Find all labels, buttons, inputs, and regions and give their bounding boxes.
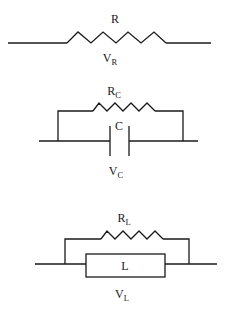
resistor-label: R bbox=[111, 12, 119, 26]
inductor-parallel-branch-left bbox=[65, 239, 101, 264]
capacitor-parallel-resistor-label: RC bbox=[107, 84, 121, 100]
capacitor-parallel-branch-left bbox=[58, 111, 93, 141]
resistor-voltage-label: VR bbox=[103, 51, 118, 67]
capacitor-circuit: RC C VC bbox=[39, 84, 198, 180]
capacitor-parallel-resistor-zigzag bbox=[93, 103, 155, 111]
inductor-parallel-resistor-label: RL bbox=[117, 211, 130, 227]
inductor-label: L bbox=[121, 259, 128, 273]
capacitor-parallel-branch-right bbox=[155, 111, 183, 141]
resistor-zigzag bbox=[67, 32, 166, 43]
inductor-voltage-label: VL bbox=[115, 287, 129, 303]
circuit-diagram: R VR RC C VC bbox=[0, 0, 227, 309]
inductor-parallel-resistor-zigzag bbox=[101, 231, 163, 239]
capacitor-voltage-label: VC bbox=[109, 164, 124, 180]
capacitor-label: C bbox=[115, 119, 123, 133]
resistor-circuit: R VR bbox=[8, 12, 211, 67]
inductor-circuit: RL L VL bbox=[35, 211, 217, 303]
inductor-parallel-branch-right bbox=[163, 239, 189, 264]
